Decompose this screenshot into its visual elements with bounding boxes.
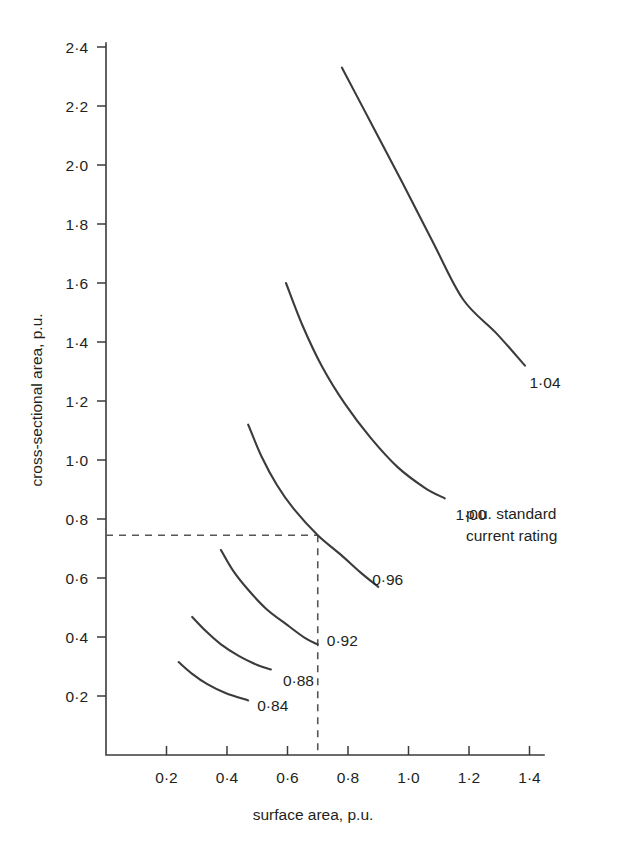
- y-tick-label: 2·4: [66, 39, 89, 56]
- x-tick-label: 1·4: [518, 769, 541, 786]
- y-tick-label: 2·0: [66, 157, 89, 174]
- x-tick-label: 1·2: [458, 769, 480, 786]
- y-axis-title: cross-sectional area, p.u.: [28, 313, 45, 486]
- x-tick-label: 1·0: [397, 769, 420, 786]
- annotation-line-2: current rating: [466, 527, 557, 544]
- axis-titles: surface area, p.u. cross-sectional area,…: [28, 313, 373, 823]
- series-label: 0·92: [327, 632, 358, 649]
- chart-svg: 0·20·40·60·81·01·21·41·61·82·02·22·40·20…: [0, 0, 626, 852]
- chart-container: 0·20·40·60·81·01·21·41·61·82·02·22·40·20…: [0, 0, 626, 852]
- x-axis-title: surface area, p.u.: [253, 806, 374, 823]
- y-tick-label: 1·6: [66, 275, 88, 292]
- y-tick-label: 1·8: [66, 216, 88, 233]
- y-tick-label: 0·6: [66, 570, 88, 587]
- y-tick-label: 0·8: [66, 511, 88, 528]
- y-tick-label: 1·4: [66, 334, 89, 351]
- axis-frame: [106, 43, 544, 755]
- axes: [97, 43, 544, 755]
- y-tick-label: 1·2: [66, 393, 88, 410]
- series-label: 0·96: [372, 571, 403, 588]
- series-label: 1·04: [530, 374, 561, 391]
- guide-lines: [106, 535, 318, 755]
- x-tick-label: 0·2: [155, 769, 177, 786]
- y-tick-label: 2·2: [66, 98, 88, 115]
- series-curve: [286, 283, 445, 498]
- curve-series: [179, 68, 525, 701]
- series-curve: [248, 425, 378, 587]
- annotation-line-1: p.u. standard: [466, 505, 556, 522]
- x-tick-label: 0·8: [337, 769, 359, 786]
- series-curve: [192, 617, 271, 670]
- x-tick-label: 0·4: [216, 769, 239, 786]
- annotation-note: p.u. standardcurrent rating: [466, 505, 557, 544]
- y-tick-label: 0·4: [66, 629, 89, 646]
- series-label: 0·88: [283, 672, 314, 689]
- series-label: 0·84: [257, 697, 288, 714]
- series-curve: [221, 550, 318, 644]
- series-curve: [179, 662, 249, 700]
- series-curve: [342, 68, 525, 366]
- x-tick-label: 0·6: [276, 769, 298, 786]
- y-tick-label: 1·0: [66, 452, 89, 469]
- y-tick-label: 0·2: [66, 688, 88, 705]
